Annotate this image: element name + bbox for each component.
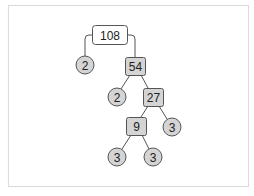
node-prime-3: 3 <box>108 148 126 166</box>
node-label: 27 <box>147 91 161 105</box>
node-label: 3 <box>169 121 176 135</box>
edge-27-9 <box>141 106 148 117</box>
node-label: 108 <box>100 29 120 43</box>
node-54: 54 <box>126 58 146 76</box>
node-label: 54 <box>129 60 143 74</box>
edge-108-2 <box>85 35 92 56</box>
node-27: 27 <box>144 89 164 107</box>
edge-27-3 <box>159 106 167 119</box>
node-prime-3: 3 <box>163 118 181 136</box>
node-label: 3 <box>150 151 157 165</box>
node-label: 2 <box>82 59 89 73</box>
edge-108-54 <box>128 35 135 57</box>
edge-54-27 <box>141 75 148 88</box>
node-108: 108 <box>93 26 128 45</box>
node-prime-2: 2 <box>108 88 126 106</box>
factor-tree: 108 2 54 2 27 9 3 3 3 <box>0 0 254 196</box>
node-prime-2: 2 <box>76 56 94 74</box>
node-label: 2 <box>114 91 121 105</box>
edge-9-3-left <box>122 135 131 149</box>
node-label: 9 <box>133 120 140 134</box>
edge-54-2 <box>121 75 130 89</box>
edge-9-3-right <box>142 135 149 149</box>
node-9: 9 <box>127 118 147 136</box>
node-label: 3 <box>114 151 121 165</box>
node-prime-3: 3 <box>144 148 162 166</box>
